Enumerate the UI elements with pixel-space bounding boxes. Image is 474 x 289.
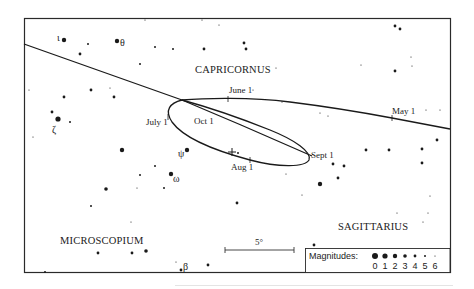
star bbox=[201, 19, 202, 20]
date-label-may: May 1 bbox=[392, 106, 415, 116]
star-label-beta: β bbox=[183, 261, 188, 272]
star bbox=[109, 87, 110, 88]
date-label-july: July 1 bbox=[146, 117, 168, 127]
star bbox=[410, 56, 411, 57]
star bbox=[139, 174, 141, 176]
star bbox=[243, 42, 246, 45]
scale-bar-label: 5° bbox=[255, 237, 264, 247]
star bbox=[313, 244, 316, 247]
star bbox=[136, 187, 137, 188]
star bbox=[436, 139, 439, 142]
star bbox=[360, 64, 361, 65]
legend-dot bbox=[434, 255, 435, 256]
date-label-june: June 1 bbox=[229, 85, 252, 95]
star bbox=[175, 261, 176, 262]
star bbox=[332, 163, 335, 166]
star bbox=[365, 149, 368, 152]
star bbox=[90, 89, 93, 92]
star bbox=[69, 121, 71, 123]
legend-dot bbox=[424, 255, 426, 257]
star bbox=[396, 212, 397, 213]
constellation-capricornus: CAPRICORNUS bbox=[195, 64, 271, 75]
star bbox=[422, 221, 423, 222]
star-chart: CAPRICORNUS MICROSCOPIUM SAGITTARIUS Jun… bbox=[0, 0, 474, 289]
magnitude-legend: Magnitudes: 0123456 bbox=[306, 249, 451, 273]
star bbox=[394, 25, 397, 28]
legend-magnitude-label: 3 bbox=[402, 261, 407, 271]
legend-magnitude-label: 0 bbox=[372, 261, 377, 271]
star bbox=[185, 148, 189, 152]
star bbox=[388, 149, 391, 152]
star bbox=[285, 173, 286, 174]
star bbox=[218, 24, 219, 25]
legend-title: Magnitudes: bbox=[309, 251, 358, 261]
star-label-iota: ι bbox=[57, 32, 60, 43]
star bbox=[28, 89, 29, 90]
bottom-rule bbox=[175, 285, 453, 286]
star bbox=[115, 39, 119, 43]
star bbox=[207, 264, 210, 267]
star bbox=[275, 67, 276, 68]
star bbox=[421, 162, 424, 165]
constellation-sagittarius: SAGITTARIUS bbox=[338, 221, 408, 232]
star bbox=[104, 187, 108, 191]
legend-magnitude-label: 6 bbox=[432, 261, 437, 271]
star bbox=[154, 165, 156, 167]
star bbox=[62, 38, 66, 42]
star bbox=[399, 28, 402, 31]
star bbox=[113, 96, 116, 99]
star bbox=[55, 116, 60, 121]
star bbox=[180, 269, 183, 272]
star bbox=[411, 65, 412, 66]
legend-dot bbox=[372, 253, 378, 259]
date-label-sept: Sept 1 bbox=[311, 150, 334, 160]
star bbox=[131, 252, 134, 255]
star bbox=[327, 115, 328, 116]
star bbox=[97, 252, 100, 255]
star bbox=[236, 202, 239, 205]
star bbox=[32, 136, 33, 137]
star bbox=[318, 182, 322, 186]
star-label-psi: ψ bbox=[178, 148, 185, 159]
legend-magnitude-label: 5 bbox=[422, 261, 427, 271]
star bbox=[237, 152, 239, 154]
legend-dot bbox=[393, 254, 397, 258]
date-label-aug: Aug 1 bbox=[231, 162, 253, 172]
legend-dot bbox=[414, 255, 417, 258]
star bbox=[343, 165, 346, 168]
star bbox=[203, 48, 206, 51]
star bbox=[44, 271, 46, 273]
star bbox=[130, 221, 131, 222]
star bbox=[252, 89, 253, 90]
star bbox=[144, 249, 148, 253]
star bbox=[120, 148, 124, 152]
star bbox=[172, 48, 174, 50]
star bbox=[429, 195, 430, 196]
legend-dot bbox=[403, 254, 407, 258]
constellation-microscopium: MICROSCOPIUM bbox=[60, 235, 144, 246]
star bbox=[337, 177, 340, 180]
star bbox=[439, 109, 440, 110]
legend-magnitude-label: 4 bbox=[412, 261, 417, 271]
star bbox=[154, 46, 156, 48]
star bbox=[144, 19, 145, 20]
star bbox=[90, 205, 92, 207]
star bbox=[139, 63, 141, 65]
star bbox=[79, 53, 82, 56]
star bbox=[63, 96, 66, 99]
star bbox=[427, 212, 428, 213]
legend-magnitude-label: 1 bbox=[382, 261, 387, 271]
star bbox=[51, 111, 54, 114]
star bbox=[87, 43, 89, 45]
star bbox=[245, 48, 248, 51]
legend-magnitude-label: 2 bbox=[392, 261, 397, 271]
star-label-zeta: ζ bbox=[52, 124, 56, 136]
star bbox=[301, 194, 302, 195]
star bbox=[425, 109, 426, 110]
star bbox=[421, 148, 424, 151]
star bbox=[319, 112, 320, 113]
star-label-theta: θ bbox=[120, 37, 125, 48]
star-label-omega: ω bbox=[173, 173, 180, 184]
legend-dot bbox=[382, 253, 387, 258]
star bbox=[163, 187, 165, 189]
